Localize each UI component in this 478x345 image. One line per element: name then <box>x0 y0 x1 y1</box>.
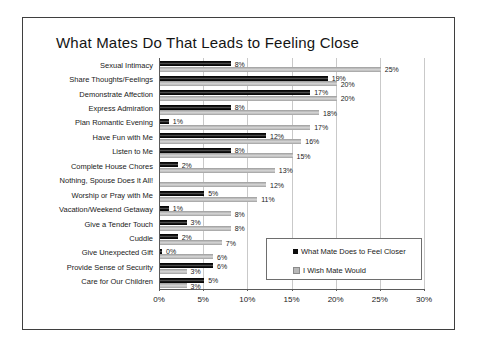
bar-row: 8%15% <box>160 145 425 159</box>
black-square-legend-icon <box>293 249 298 254</box>
x-tick-label: 15% <box>283 295 299 304</box>
axis-tick <box>159 289 160 291</box>
bar-series-0 <box>160 105 231 110</box>
bar-series-0 <box>160 220 187 225</box>
gray-square-legend-icon <box>293 267 300 274</box>
bar-series-1 <box>160 182 266 187</box>
bar-series-1 <box>160 269 187 274</box>
bar-series-1 <box>160 153 293 158</box>
legend-entry-series-0: What Mate Does to Feel Closer <box>293 245 421 257</box>
legend-entry-series-1: I Wish Mate Would <box>293 264 421 276</box>
bar-series-0 <box>160 206 169 211</box>
bar-row: 3%8% <box>160 217 425 231</box>
axis-tick <box>336 289 337 291</box>
bar-series-1 <box>160 67 381 72</box>
bar-row: 1%17% <box>160 116 425 130</box>
axis-tick <box>247 289 248 291</box>
bar-series-0 <box>160 148 231 153</box>
bar-series-1 <box>160 139 301 144</box>
category-label: Give Unexpected Gift <box>23 246 153 260</box>
bar-series-1 <box>160 226 231 231</box>
category-label: Demonstrate Affection <box>23 87 153 101</box>
bar-row: 12% <box>160 174 425 188</box>
x-tick-label: 25% <box>372 295 388 304</box>
axis-tick <box>292 289 293 291</box>
bar-series-1 <box>160 211 231 216</box>
bar-series-0 <box>160 162 178 167</box>
bar-value-label: 6% <box>217 263 227 270</box>
category-label: Complete House Chores <box>23 159 153 173</box>
bar-series-1 <box>160 254 213 259</box>
bar-series-0 <box>160 234 178 239</box>
x-tick-label: 5% <box>197 295 209 304</box>
axis-tick <box>203 289 204 291</box>
category-label: Express Admiration <box>23 101 153 115</box>
bar-row: 17%20% <box>160 87 425 101</box>
category-label: Provide Sense of Security <box>23 260 153 274</box>
bar-row: 8%18% <box>160 101 425 115</box>
category-label: Listen to Me <box>23 145 153 159</box>
bar-series-0 <box>160 90 310 95</box>
bar-row: 2%13% <box>160 159 425 173</box>
bar-series-0 <box>160 133 266 138</box>
legend-label: What Mate Does to Feel Closer <box>301 247 406 256</box>
x-tick-label: 10% <box>239 295 255 304</box>
axis-tick <box>380 289 381 291</box>
chart-frame: What Mates Do That Leads to Feeling Clos… <box>22 17 455 330</box>
category-label: Sexual Intimacy <box>23 58 153 72</box>
bar-row: 1%8% <box>160 202 425 216</box>
category-label: Share Thoughts/Feelings <box>23 72 153 86</box>
category-label: Care for Our Children <box>23 275 153 289</box>
x-tick-label: 20% <box>328 295 344 304</box>
bar-series-0 <box>160 119 169 124</box>
category-label: Cuddle <box>23 231 153 245</box>
category-label: Plan Romantic Evening <box>23 116 153 130</box>
bar-row: 12%16% <box>160 130 425 144</box>
x-tick-label: 0% <box>153 295 165 304</box>
category-label: Nothing, Spouse Does It All! <box>23 174 153 188</box>
bar-series-0 <box>160 249 162 254</box>
category-label: Give a Tender Touch <box>23 217 153 231</box>
bar-series-1 <box>160 197 257 202</box>
bar-series-0 <box>160 61 231 66</box>
bar-series-1 <box>160 240 222 245</box>
bar-row: 19%20% <box>160 72 425 86</box>
bar-series-0 <box>160 76 328 81</box>
bar-series-1 <box>160 96 337 101</box>
bar-row: 8%25% <box>160 58 425 72</box>
bar-series-1 <box>160 81 337 86</box>
chart-title: What Mates Do That Leads to Feeling Clos… <box>56 34 359 51</box>
axis-tick <box>424 289 425 291</box>
bar-value-label: 5% <box>208 277 218 284</box>
bar-series-1 <box>160 168 275 173</box>
legend-label: I Wish Mate Would <box>303 266 366 275</box>
x-axis-labels: 0%5%10%15%20%25%30% <box>159 293 424 305</box>
bar-series-1 <box>160 283 187 288</box>
x-tick-label: 30% <box>416 295 432 304</box>
category-label: Have Fun with Me <box>23 130 153 144</box>
bar-value-label: 3% <box>191 283 201 290</box>
bar-series-0 <box>160 263 213 268</box>
category-label: Vacation/Weekend Getaway <box>23 202 153 216</box>
bar-series-0 <box>160 191 204 196</box>
bar-series-1 <box>160 110 319 115</box>
bar-series-1 <box>160 125 310 130</box>
category-label: Worship or Pray with Me <box>23 188 153 202</box>
legend: What Mate Does to Feel Closer I Wish Mat… <box>266 238 422 280</box>
bar-row: 5%11% <box>160 188 425 202</box>
